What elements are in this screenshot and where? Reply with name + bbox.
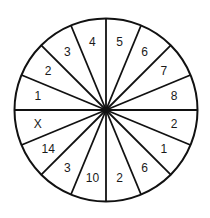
sector-label: 2 [116, 171, 123, 185]
sector-label: 2 [45, 64, 52, 78]
sector-label: 6 [141, 45, 148, 59]
wheel-hub [103, 107, 109, 113]
sector-label: 1 [160, 142, 167, 156]
sector-label: 6 [141, 161, 148, 175]
sector-label: 2 [171, 117, 178, 131]
sector-label: 8 [171, 89, 178, 103]
sector-label: 14 [42, 142, 56, 156]
number-wheel: 5678216210314X1234 [0, 0, 210, 218]
sector-label: 5 [116, 35, 123, 49]
sector-label: 3 [64, 161, 71, 175]
sector-label: 7 [160, 64, 167, 78]
sector-label: 1 [34, 89, 41, 103]
sector-label: 10 [86, 171, 100, 185]
sector-label: X [34, 117, 42, 131]
sector-label: 3 [64, 45, 71, 59]
sector-label: 4 [89, 35, 96, 49]
